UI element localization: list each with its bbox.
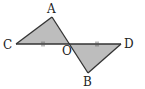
label-O: O	[62, 44, 72, 58]
label-C: C	[3, 38, 12, 52]
geometry-diagram: A C O D B	[0, 0, 145, 89]
triangle-BOD	[69, 44, 121, 73]
label-A: A	[46, 2, 56, 16]
label-D: D	[124, 37, 134, 51]
label-B: B	[83, 75, 92, 89]
